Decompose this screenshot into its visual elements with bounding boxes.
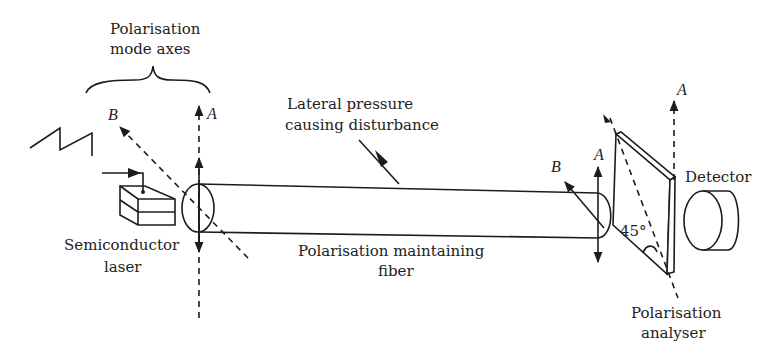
detector: [684, 191, 739, 250]
fiber-input-end: [182, 184, 214, 232]
pressure-arrowhead: [375, 150, 388, 167]
fiber-label-line2: fiber: [378, 262, 414, 280]
pressure-label-line1: Lateral pressure: [287, 95, 413, 113]
pressure-label-line2: causing disturbance: [285, 116, 439, 134]
pressure-arrow: [359, 140, 399, 184]
polarisation-analyser: [603, 114, 678, 298]
axis-a-left-label: A: [206, 105, 217, 122]
angle-label: 45°: [620, 222, 647, 240]
mode-axes-label-line2: mode axes: [110, 40, 190, 58]
axis-b-left-label: B: [108, 106, 118, 123]
modulation-signal-icon: [30, 128, 92, 156]
mode-axes-label-line1: Polarisation: [110, 20, 201, 38]
mode-axes-brace: [86, 66, 210, 93]
semiconductor-laser: [102, 168, 175, 225]
fiber-label-line1: Polarisation maintaining: [298, 242, 485, 260]
laser-label-line1: Semiconductor: [64, 236, 180, 254]
polarisation-maintaining-fiber: [182, 184, 611, 238]
analyser-label-line1: Polarisation: [631, 304, 722, 322]
axis-a-analyser-label: A: [676, 81, 687, 98]
analyser-label-line2: analyser: [641, 324, 706, 342]
detector-label: Detector: [685, 168, 752, 186]
fiber-output-end: [598, 193, 611, 238]
fiber-sensor-diagram: Polarisation mode axes B A Semiconductor…: [0, 0, 774, 360]
laser-label-line2: laser: [104, 258, 142, 276]
axis-b-right-label: B: [551, 158, 561, 175]
axis-a-right-label: A: [593, 146, 604, 163]
